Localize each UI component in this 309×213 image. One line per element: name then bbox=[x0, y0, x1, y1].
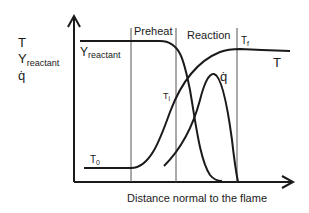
y-label-reactant-sub: reactant bbox=[27, 58, 60, 68]
label-tf-sub: f bbox=[247, 40, 249, 47]
y-axis-label: T Yreactant q̇ bbox=[18, 35, 60, 83]
x-axis-label: Distance normal to the flame bbox=[127, 192, 267, 204]
label-reactant-sub: reactant bbox=[88, 50, 121, 60]
label-temperature-curve: T bbox=[273, 55, 281, 70]
label-t0: T0 bbox=[90, 154, 100, 166]
heat-release-curve bbox=[164, 74, 238, 182]
y-label-heat-release: q̇ bbox=[18, 68, 25, 83]
zone-label-preheat: Preheat bbox=[134, 25, 173, 37]
label-tf: Tf bbox=[241, 35, 249, 47]
label-reactant-curve: Yreactant bbox=[80, 45, 121, 60]
temperature-curve bbox=[84, 49, 290, 168]
y-label-reactant-main: Y bbox=[18, 51, 27, 66]
label-reactant-main: Y bbox=[80, 45, 88, 59]
label-t0-sub: 0 bbox=[96, 159, 100, 166]
label-ti: Ti bbox=[163, 91, 171, 102]
y-label-reactant: Yreactant bbox=[18, 51, 60, 68]
y-label-temperature: T bbox=[18, 35, 26, 50]
reactant-mass-fraction-curve bbox=[80, 41, 222, 181]
curves bbox=[80, 41, 290, 182]
flame-structure-diagram: T Yreactant q̇ Preheat Reaction Yreactan… bbox=[0, 0, 309, 213]
zone-label-reaction: Reaction bbox=[187, 29, 230, 41]
label-ti-sub: i bbox=[169, 95, 171, 102]
label-heat-release-curve: q̇ bbox=[220, 69, 227, 84]
